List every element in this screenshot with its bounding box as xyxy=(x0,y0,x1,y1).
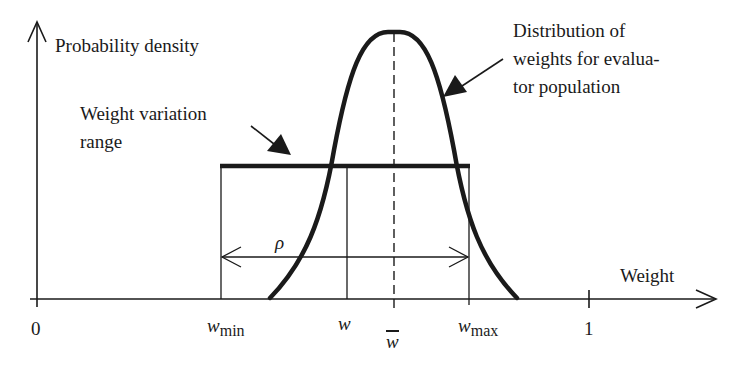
w-min-base: w xyxy=(207,315,220,336)
tick-label-one: 1 xyxy=(584,318,594,340)
rho-label: ρ xyxy=(275,232,284,254)
curve-annotation-line1: Distribution of xyxy=(513,20,625,42)
tick-label-zero: 0 xyxy=(31,318,41,340)
x-axis-label: Weight xyxy=(620,265,674,287)
range-pointer-arrowhead-icon xyxy=(267,134,291,155)
distribution-pointer-line xyxy=(462,59,503,86)
w-max-sub: max xyxy=(471,322,499,339)
curve-annotation-line2: weights for evalua- xyxy=(513,48,660,70)
range-annotation-line2: range xyxy=(80,131,122,153)
tick-label-w-min: wmin xyxy=(207,315,245,342)
tick-label-w: w xyxy=(338,313,351,335)
curve-annotation-line3: tor population xyxy=(513,76,620,98)
w-max-base: w xyxy=(458,315,471,336)
y-axis-label: Probability density xyxy=(55,35,199,57)
tick-label-w-max: wmax xyxy=(458,315,498,342)
range-pointer-line xyxy=(251,126,274,144)
tick-label-w-bar: w xyxy=(386,330,399,352)
range-annotation-line1: Weight variation xyxy=(80,103,207,125)
w-min-sub: min xyxy=(220,322,245,339)
